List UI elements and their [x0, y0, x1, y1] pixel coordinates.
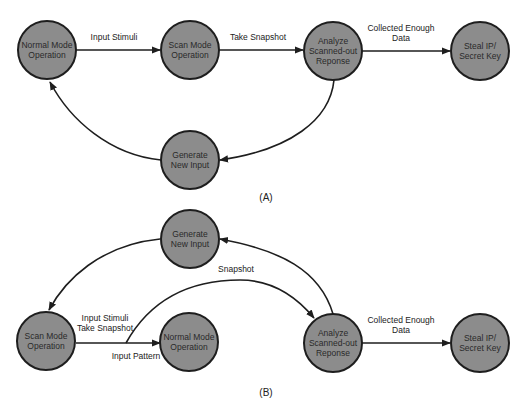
edge-label-data-b: Data: [392, 325, 410, 335]
svg-text:Scanned-out: Scanned-out: [309, 338, 358, 348]
edge-analyze-to-generate-b: [220, 239, 333, 314]
edge-label-take-snapshot: Take Snapshot: [230, 32, 287, 42]
node-scan-mode-operation: Scan Mode Operation: [161, 21, 219, 79]
svg-text:Secret Key: Secret Key: [459, 51, 501, 61]
edge-label-snapshot: Snapshot: [218, 264, 255, 274]
edge-label-input-stimuli-b: Input Stimuli: [82, 313, 129, 323]
node-analyze-scanned-out-response: Analyze Scanned-out Reponse: [304, 22, 362, 80]
edge-label-collected-enough: Collected Enough: [367, 23, 434, 33]
node-steal-ip-secret-key-b: Steal IP/ Secret Key: [451, 314, 509, 372]
svg-text:Reponse: Reponse: [316, 348, 350, 358]
svg-text:Steal IP/: Steal IP/: [464, 41, 497, 51]
edge-label-take-snapshot-b: Take Snapshot: [77, 323, 134, 333]
edge-snapshot-to-analyze: [126, 280, 314, 343]
node-scan-mode-operation-b: Scan Mode Operation: [17, 312, 75, 370]
node-generate-new-input: Generate New Input: [161, 131, 219, 189]
node-analyze-scanned-out-response-b: Analyze Scanned-out Reponse: [304, 314, 362, 372]
panel-a: Input Stimuli Take Snapshot Collected En…: [18, 21, 509, 203]
panel-b: Input Stimuli Take Snapshot Input Patter…: [17, 210, 509, 398]
node-normal-mode-operation: Normal Mode Operation: [18, 21, 76, 79]
svg-text:Scan Mode: Scan Mode: [25, 331, 68, 341]
svg-text:Normal Mode: Normal Mode: [163, 332, 214, 342]
svg-text:Scan Mode: Scan Mode: [169, 40, 212, 50]
svg-text:Operation: Operation: [171, 50, 209, 60]
svg-text:Normal Mode: Normal Mode: [21, 40, 72, 50]
node-generate-new-input-b: Generate New Input: [161, 210, 219, 268]
edge-generate-to-normal: [50, 82, 161, 160]
node-steal-ip-secret-key: Steal IP/ Secret Key: [451, 22, 509, 80]
edge-label-collected-enough-b: Collected Enough: [367, 315, 434, 325]
svg-text:Reponse: Reponse: [316, 56, 350, 66]
svg-text:New Input: New Input: [171, 239, 210, 249]
edge-label-input-pattern: Input Pattern: [112, 351, 161, 361]
svg-text:Generate: Generate: [172, 229, 208, 239]
svg-text:Secret Key: Secret Key: [459, 343, 501, 353]
edge-label-input-stimuli: Input Stimuli: [91, 32, 138, 42]
node-normal-mode-operation-b: Normal Mode Operation: [160, 313, 218, 371]
svg-text:Operation: Operation: [28, 50, 66, 60]
svg-text:Steal IP/: Steal IP/: [464, 333, 497, 343]
state-diagram: Input Stimuli Take Snapshot Collected En…: [0, 0, 526, 414]
svg-text:Operation: Operation: [27, 341, 65, 351]
svg-text:New Input: New Input: [171, 160, 210, 170]
edge-label-data: Data: [392, 33, 410, 43]
svg-text:Operation: Operation: [170, 342, 208, 352]
panel-label-a: (A): [259, 192, 272, 203]
svg-text:Analyze: Analyze: [318, 36, 349, 46]
svg-text:Generate: Generate: [172, 150, 208, 160]
svg-text:Scanned-out: Scanned-out: [309, 46, 358, 56]
edge-generate-to-scan: [49, 239, 160, 310]
svg-text:Analyze: Analyze: [318, 328, 349, 338]
panel-label-b: (B): [259, 387, 272, 398]
edge-analyze-to-generate: [220, 80, 334, 160]
